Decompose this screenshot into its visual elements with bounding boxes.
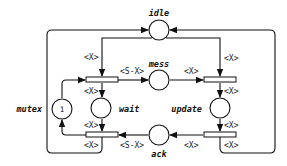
place-idle xyxy=(149,20,169,40)
label-update: update xyxy=(171,104,202,114)
place-update xyxy=(210,98,230,118)
inscr-idle-left-top: <X> xyxy=(84,53,99,62)
petri-net-diagram: 1 idle mess ack wait update mutex <X> <X… xyxy=(0,0,287,166)
inscr-idle-right-top: <X> xyxy=(224,54,239,63)
label-wait: wait xyxy=(119,104,139,114)
place-ack xyxy=(149,125,169,145)
place-mess xyxy=(149,70,169,90)
transition-right-top xyxy=(204,77,236,82)
place-wait xyxy=(91,98,111,118)
inscr-mess-right-top: <X> xyxy=(184,67,199,76)
label-mutex: mutex xyxy=(15,104,42,114)
label-idle: idle xyxy=(149,8,169,18)
inscr-update-right-bottom: <X> xyxy=(224,121,239,130)
arc-mutex-to-left-top xyxy=(62,80,85,98)
inscr-left-top-wait: <X> xyxy=(84,87,99,96)
inscr-wait-left-bottom: <X> xyxy=(84,121,99,130)
inscr-right-bottom-ack: <X> xyxy=(184,141,199,150)
label-mess: mess xyxy=(148,59,169,69)
transition-right-bottom xyxy=(204,132,236,137)
transition-left-top xyxy=(86,77,118,82)
inscr-ack-left-bottom: <S-X> xyxy=(120,141,144,150)
inscr-left-bottom-idle: <X> xyxy=(84,141,99,150)
label-ack: ack xyxy=(151,149,167,159)
transition-left-bottom xyxy=(86,132,118,137)
mutex-token-count: 1 xyxy=(60,105,65,114)
inscr-right-top-update: <X> xyxy=(224,87,239,96)
inscr-right-bottom-idle: <X> xyxy=(224,141,239,150)
arc-left-bottom-to-mutex xyxy=(62,120,86,135)
inscr-left-top-mess: <S-X> xyxy=(120,67,144,76)
